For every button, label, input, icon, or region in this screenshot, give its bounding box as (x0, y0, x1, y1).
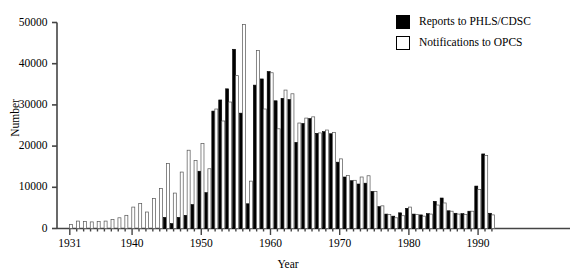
bar-reports (419, 215, 422, 229)
bar-notifications (229, 102, 232, 228)
bar-notifications (305, 118, 308, 228)
bar-notifications (83, 222, 86, 229)
bar-reports (364, 183, 367, 228)
bar-reports (226, 89, 229, 229)
bar-notifications (284, 90, 287, 228)
bar-reports (475, 186, 478, 228)
bar-reports (399, 213, 402, 229)
bar-notifications (450, 211, 453, 228)
bar-notifications (208, 169, 211, 229)
bar-reports (378, 207, 381, 229)
x-axis-title: Year (0, 258, 576, 270)
bar-notifications (374, 191, 377, 228)
legend-label-reports: Reports to PHLS/CDSC (419, 15, 531, 28)
bar-reports (219, 100, 222, 229)
legend-item-notifications: Notifications to OPCS (396, 33, 574, 52)
bar-reports (267, 72, 270, 229)
bar-notifications (201, 144, 204, 229)
bar-reports (413, 214, 416, 228)
bar-notifications (395, 218, 398, 229)
bar-reports (468, 211, 471, 228)
bar-notifications (146, 212, 149, 228)
bar-notifications (118, 218, 121, 229)
bar-notifications (70, 224, 73, 228)
bar-notifications (263, 109, 266, 228)
bar-notifications (422, 216, 425, 228)
bar-notifications (339, 159, 342, 229)
legend-label-notifications: Notifications to OPCS (419, 36, 523, 49)
bar-reports (184, 215, 187, 228)
bar-reports (323, 132, 326, 229)
bar-reports (281, 98, 284, 228)
x-tick-label: 1970 (315, 238, 365, 250)
bar-notifications (457, 214, 460, 228)
bar-notifications (402, 216, 405, 229)
bar-notifications (90, 222, 93, 229)
x-tick-label: 1990 (453, 238, 503, 250)
bar-reports (350, 181, 353, 229)
bar-reports (246, 204, 249, 229)
bar-reports (392, 216, 395, 228)
bar-notifications (270, 73, 273, 229)
bar-reports (288, 100, 291, 229)
bar-reports (177, 217, 180, 228)
bar-notifications (443, 203, 446, 229)
x-tick-label: 1960 (245, 238, 295, 250)
bar-notifications (111, 219, 114, 228)
legend-swatch-hollow (396, 36, 410, 50)
bar-notifications (159, 189, 162, 229)
x-tick-label: 1950 (176, 238, 226, 250)
bar-notifications (215, 109, 218, 228)
bar-reports (205, 193, 208, 229)
bar-notifications (236, 76, 239, 229)
bar-notifications (381, 206, 384, 229)
bar-reports (440, 198, 443, 228)
bars (70, 25, 495, 229)
bar-reports (260, 79, 263, 229)
bar-notifications (485, 156, 488, 229)
bar-reports (212, 111, 215, 228)
bar-notifications (243, 25, 246, 229)
bar-notifications (173, 193, 176, 228)
bar-notifications (464, 214, 467, 228)
bar-reports (329, 134, 332, 229)
bar-notifications (319, 133, 322, 229)
bar-reports (482, 154, 485, 229)
bar-reports (302, 123, 305, 228)
bar-notifications (298, 123, 301, 228)
y-tick-label: 0 (0, 223, 48, 235)
bar-notifications (194, 161, 197, 229)
bar-notifications (104, 221, 107, 228)
bar-reports (336, 162, 339, 228)
bar-reports (426, 214, 429, 229)
bar-reports (253, 85, 256, 228)
bar-notifications (76, 221, 79, 228)
bar-notifications (166, 163, 169, 228)
bar-reports (191, 205, 194, 229)
bar-reports (357, 184, 360, 229)
bar-reports (406, 208, 409, 228)
x-tick-label: 1980 (384, 238, 434, 250)
bar-reports (198, 171, 201, 228)
bar-notifications (153, 198, 156, 228)
bar-reports (274, 101, 277, 229)
y-tick-label: 30000 (0, 99, 48, 111)
bar-notifications (187, 150, 190, 228)
bar-reports (489, 213, 492, 228)
bar-reports (295, 142, 298, 228)
y-tick-label: 20000 (0, 140, 48, 152)
bar-reports (240, 113, 243, 228)
bar-notifications (429, 214, 432, 228)
bar-notifications (291, 94, 294, 229)
bar-notifications (139, 203, 142, 228)
chart-figure: Number Year Reports to PHLS/CDSC Notific… (0, 0, 576, 278)
bar-reports (233, 49, 236, 228)
bar-notifications (471, 211, 474, 228)
x-ticks (70, 229, 492, 236)
bar-notifications (277, 129, 280, 229)
bar-notifications (256, 51, 259, 229)
bar-notifications (436, 205, 439, 228)
legend-swatch-filled (396, 15, 410, 29)
bar-notifications (388, 214, 391, 228)
bar-notifications (492, 215, 495, 229)
